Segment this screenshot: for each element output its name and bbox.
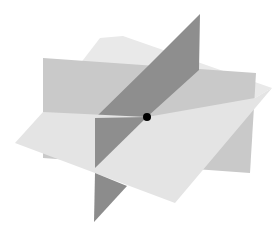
three-planes-diagram — [0, 0, 273, 241]
intersection-point — [143, 113, 151, 121]
